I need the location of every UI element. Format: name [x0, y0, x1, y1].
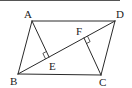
right-angle-mark-e — [43, 52, 47, 59]
label-a: A — [24, 8, 32, 20]
label-f: F — [76, 25, 82, 37]
side-cd — [101, 21, 115, 75]
diagonal-bd — [18, 21, 115, 74]
label-b: B — [10, 75, 17, 87]
side-ab — [18, 21, 32, 74]
right-angle-mark-f — [87, 36, 91, 43]
perpendicular-cf — [84, 38, 101, 75]
label-e: E — [49, 60, 56, 72]
label-c: C — [99, 76, 106, 88]
label-d: D — [116, 8, 124, 20]
side-bc — [18, 74, 101, 75]
geometry-figure: A B C D E F — [0, 0, 132, 88]
